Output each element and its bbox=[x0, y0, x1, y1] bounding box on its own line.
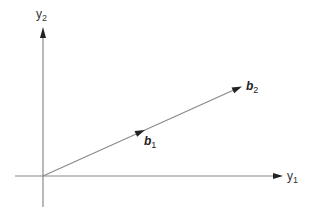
vertical-axis-label: y2 bbox=[36, 7, 47, 23]
vertical-axis bbox=[40, 27, 46, 207]
vector-diagram: y2 y1 b1 b2 bbox=[0, 0, 310, 213]
arrowhead-icon bbox=[232, 87, 243, 94]
arrowhead-icon bbox=[40, 27, 46, 38]
horizontal-axis-label: y1 bbox=[287, 169, 298, 185]
horizontal-axis bbox=[15, 173, 283, 179]
arrowhead-icon bbox=[273, 173, 283, 179]
vector-b1-label: b1 bbox=[144, 134, 156, 150]
vector-b2-label: b2 bbox=[246, 79, 258, 95]
